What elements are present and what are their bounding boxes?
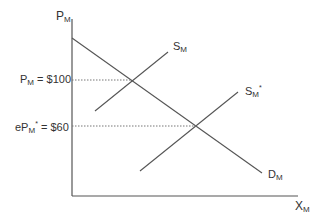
x-axis-label: XM <box>295 200 310 214</box>
supply-curve-shifted <box>140 92 238 171</box>
y-axis-label: PM <box>56 10 71 24</box>
supply-shifted-label: SM* <box>245 84 262 99</box>
price-original-label: PM = $100 <box>20 74 71 87</box>
supply-curve <box>95 52 168 111</box>
supply-label: SM <box>173 41 187 54</box>
price-new-label: ePM* = $60 <box>15 120 69 135</box>
supply-demand-diagram <box>0 0 323 220</box>
demand-curve <box>72 38 262 173</box>
demand-label: DM <box>268 169 283 182</box>
